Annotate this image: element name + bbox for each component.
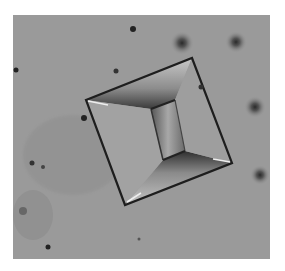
crystal-micrograph [13,15,270,259]
